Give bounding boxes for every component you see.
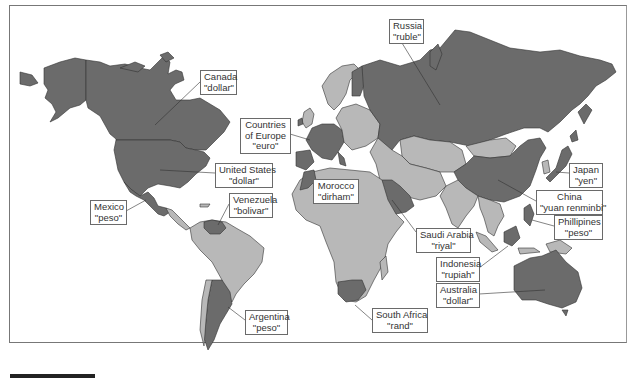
country-name: Saudi Arabia (420, 230, 467, 241)
label-united-states: United States "dollar" (215, 163, 273, 188)
country-name: Phillipines (558, 217, 599, 228)
label-canada: Canada "dollar" (200, 70, 237, 95)
label-mexico: Mexico "peso" (90, 200, 127, 225)
label-argentina: Argentina "peso" (245, 310, 288, 335)
currency-name: "euro" (244, 141, 287, 152)
country-name: Mexico (94, 202, 123, 213)
currency-name: "bolivar" (233, 206, 269, 217)
label-china: China "yuan renminbi" (536, 190, 603, 215)
country-name-line1: Countries (244, 120, 287, 131)
label-saudi-arabia: Saudi Arabia "riyal" (416, 228, 471, 253)
currency-name: "peso" (558, 228, 599, 239)
borneo (504, 226, 520, 246)
label-russia: Russia "ruble" (389, 19, 424, 44)
label-morocco: Morocco "dirham" (313, 179, 359, 204)
currency-name: "yen" (573, 176, 599, 187)
country-name: Venezuela (233, 195, 269, 206)
label-south-africa: South Africa "rand" (372, 308, 428, 333)
country-name: Canada (204, 72, 233, 83)
country-name: Indonesia (440, 259, 476, 270)
currency-name: "dirham" (317, 192, 355, 203)
country-name: China (540, 192, 599, 203)
alaska (20, 58, 86, 122)
currency-name: "ruble" (393, 32, 420, 43)
currency-name: "dollar" (204, 83, 233, 94)
label-phillipines: Phillipines "peso" (554, 215, 603, 240)
russia (362, 30, 616, 150)
label-japan: Japan "yen" (569, 163, 603, 188)
figure-caption-bar (10, 374, 95, 378)
label-indonesia: Indonesia "rupiah" (436, 257, 480, 282)
country-name: United States (219, 165, 269, 176)
currency-name: "yuan renminbi" (540, 203, 599, 214)
australia (514, 250, 582, 308)
philippines (524, 204, 534, 226)
label-australia: Australia "dollar" (436, 283, 480, 308)
currency-name: "rupiah" (440, 270, 476, 281)
country-name: Japan (573, 165, 599, 176)
label-europe: Countries of Europe "euro" (240, 118, 291, 154)
country-name: Russia (393, 21, 420, 32)
country-name: Morocco (317, 181, 355, 192)
uk (302, 108, 314, 128)
currency-name: "peso" (249, 323, 284, 334)
currency-name: "dollar" (440, 296, 476, 307)
currency-name: "peso" (94, 213, 123, 224)
country-name: South Africa (376, 310, 424, 321)
currency-name: "riyal" (420, 241, 467, 252)
country-name: Argentina (249, 312, 284, 323)
currency-name: "dollar" (219, 176, 269, 187)
currency-name: "rand" (376, 321, 424, 332)
label-venezuela: Venezuela "bolivar" (229, 193, 273, 218)
country-name: Australia (440, 285, 476, 296)
